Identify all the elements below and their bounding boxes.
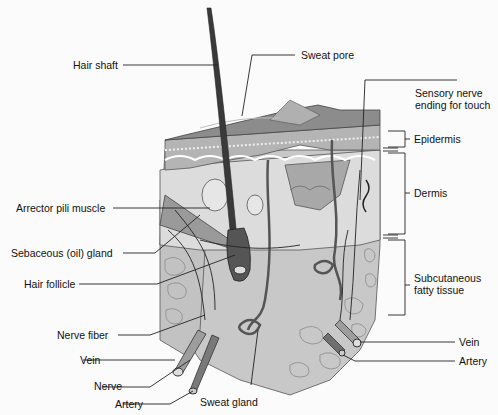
label-sebaceous-gland: Sebaceous (oil) gland — [11, 247, 113, 259]
label-dermis: Dermis — [414, 187, 447, 199]
label-sensory-nerve-ending: Sensory nerve ending for touch — [415, 87, 490, 111]
label-sweat-pore: Sweat pore — [301, 49, 354, 61]
label-hair-follicle: Hair follicle — [24, 278, 75, 290]
label-subcutaneous-fatty-tissue: Subcutaneous fatty tissue — [414, 272, 481, 296]
label-hair-shaft: Hair shaft — [73, 59, 118, 71]
label-artery-right: Artery — [459, 355, 487, 367]
label-arrector-pili-muscle: Arrector pili muscle — [16, 202, 105, 214]
label-artery-left: Artery — [115, 398, 143, 410]
label-nerve: Nerve — [94, 380, 122, 392]
label-sweat-gland: Sweat gland — [200, 396, 258, 408]
label-vein-left: Vein — [80, 354, 100, 366]
label-nerve-fiber: Nerve fiber — [57, 329, 108, 341]
label-epidermis: Epidermis — [414, 133, 461, 145]
label-vein-right: Vein — [459, 336, 479, 348]
skin-diagram: Hair shaft Arrector pili muscle Sebaceou… — [0, 0, 498, 415]
